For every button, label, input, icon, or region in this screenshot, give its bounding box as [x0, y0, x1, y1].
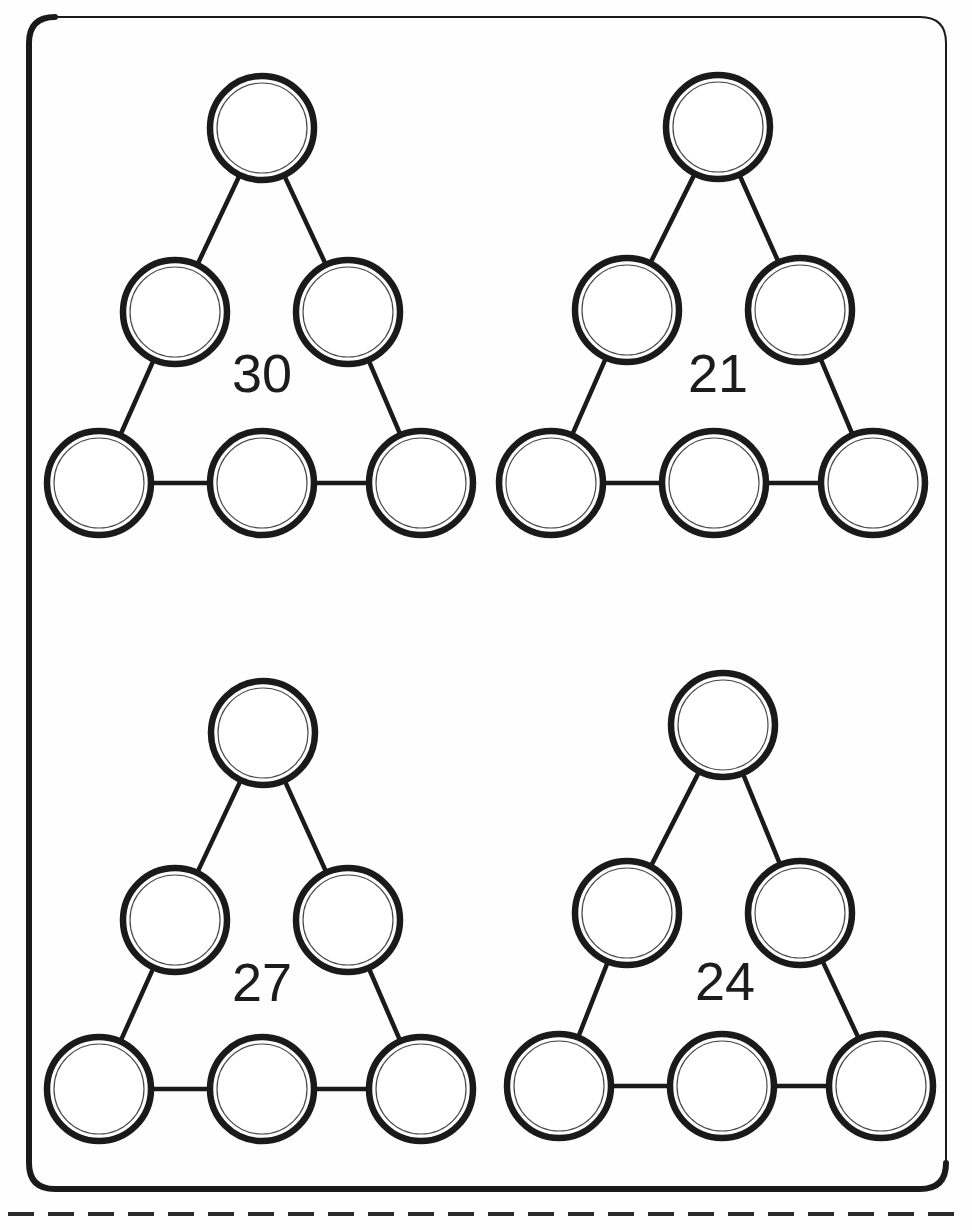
- circle-outer-ring: [369, 431, 473, 535]
- circle-outer-ring: [575, 861, 679, 965]
- circle-bottom-mid[interactable]: [670, 1034, 774, 1138]
- circle-outer-ring: [47, 1037, 151, 1141]
- circle-outer-ring: [210, 431, 314, 535]
- circle-apex[interactable]: [671, 673, 775, 777]
- puzzle-edge: [819, 355, 854, 438]
- circle-bottom-right[interactable]: [829, 1034, 933, 1138]
- circle-outer-ring: [210, 76, 314, 180]
- worksheet-border-thick: [29, 17, 946, 1189]
- circle-outer-ring: [296, 868, 400, 972]
- circle-outer-ring: [211, 681, 315, 785]
- puzzle-target-sum: 27: [232, 952, 292, 1012]
- circle-outer-ring: [123, 260, 227, 364]
- puzzle-edge: [283, 778, 327, 876]
- puzzle-edge: [367, 357, 402, 438]
- circle-apex[interactable]: [666, 75, 770, 179]
- triangle-puzzle: 24: [507, 673, 933, 1138]
- puzzle-target-sum: 21: [688, 343, 748, 403]
- circle-outer-ring: [748, 258, 852, 362]
- worksheet-border-thin: [55, 17, 946, 1163]
- circle-outer-ring: [662, 431, 766, 535]
- circle-outer-ring: [507, 1034, 611, 1138]
- circle-mid-right[interactable]: [296, 868, 400, 972]
- circle-bottom-left[interactable]: [47, 1037, 151, 1141]
- circle-outer-ring: [670, 1034, 774, 1138]
- circle-outer-ring: [748, 861, 852, 965]
- circle-bottom-right[interactable]: [369, 1037, 473, 1141]
- puzzle-edge: [821, 957, 860, 1041]
- puzzle-edge: [367, 965, 401, 1044]
- circle-outer-ring: [829, 1034, 933, 1138]
- puzzle-edge: [649, 769, 700, 870]
- triangle-puzzle: 21: [499, 75, 925, 535]
- circle-bottom-left[interactable]: [507, 1034, 611, 1138]
- circle-outer-ring: [296, 260, 400, 364]
- circle-outer-ring: [671, 673, 775, 777]
- puzzle-edge: [196, 777, 242, 875]
- circle-mid-right[interactable]: [748, 258, 852, 362]
- puzzle-target-sum: 30: [232, 343, 292, 403]
- circle-bottom-mid[interactable]: [210, 431, 314, 535]
- circle-mid-left[interactable]: [575, 258, 679, 362]
- circle-apex[interactable]: [211, 681, 315, 785]
- circle-apex[interactable]: [210, 76, 314, 180]
- puzzle-grid: 30212724: [47, 75, 933, 1141]
- worksheet-canvas: 30212724: [0, 0, 972, 1230]
- worksheet-page: 30212724: [0, 0, 972, 1230]
- puzzle-edge: [649, 171, 696, 266]
- circle-outer-ring: [123, 868, 227, 972]
- puzzle-edge: [196, 172, 241, 267]
- circle-mid-left[interactable]: [123, 260, 227, 364]
- worksheet-border: [29, 17, 946, 1189]
- puzzle-edge: [577, 959, 609, 1041]
- circle-mid-left[interactable]: [123, 868, 227, 972]
- circle-mid-left[interactable]: [575, 861, 679, 965]
- circle-outer-ring: [575, 258, 679, 362]
- puzzle-edge: [571, 355, 608, 438]
- puzzle-edge: [283, 172, 328, 267]
- circle-outer-ring: [821, 431, 925, 535]
- circle-bottom-left[interactable]: [499, 431, 603, 535]
- circle-bottom-left[interactable]: [47, 431, 151, 535]
- puzzle-edge: [119, 357, 155, 438]
- puzzle-edge: [738, 172, 780, 266]
- puzzle-target-sum: 24: [695, 951, 755, 1011]
- circle-bottom-right[interactable]: [821, 431, 925, 535]
- circle-bottom-mid[interactable]: [662, 431, 766, 535]
- puzzle-edge: [742, 770, 782, 867]
- circle-outer-ring: [47, 431, 151, 535]
- circle-outer-ring: [666, 75, 770, 179]
- circle-mid-right[interactable]: [296, 260, 400, 364]
- puzzle-edge: [119, 965, 155, 1045]
- circle-outer-ring: [210, 1037, 314, 1141]
- circle-outer-ring: [369, 1037, 473, 1141]
- circle-outer-ring: [499, 431, 603, 535]
- triangle-puzzle: 27: [47, 681, 473, 1141]
- circle-mid-right[interactable]: [748, 861, 852, 965]
- circle-bottom-mid[interactable]: [210, 1037, 314, 1141]
- circle-bottom-right[interactable]: [369, 431, 473, 535]
- triangle-puzzle: 30: [47, 76, 473, 535]
